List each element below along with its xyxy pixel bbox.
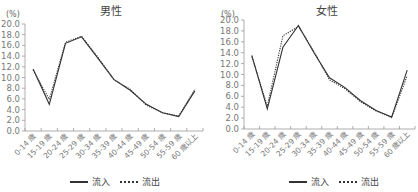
- solid-line-icon: [289, 181, 307, 183]
- dotted-line-icon: [120, 181, 138, 183]
- svg-text:20.0: 20.0: [220, 15, 239, 25]
- solid-line-icon: [70, 181, 88, 183]
- svg-text:12.0: 12.0: [1, 62, 20, 72]
- legend-inflow: 流入: [311, 175, 329, 188]
- svg-text:16.0: 16.0: [220, 37, 239, 47]
- svg-text:16.0: 16.0: [1, 40, 20, 50]
- svg-text:20.0: 20.0: [1, 19, 20, 29]
- svg-text:2.0: 2.0: [6, 115, 20, 125]
- legend: 流入 流出: [289, 175, 379, 188]
- svg-text:8.0: 8.0: [225, 80, 239, 90]
- line-chart-male: 0.02.04.06.08.010.012.014.016.018.020.00…: [0, 0, 209, 175]
- svg-text:10.0: 10.0: [1, 73, 20, 83]
- svg-text:8.0: 8.0: [6, 83, 20, 93]
- legend-inflow: 流入: [92, 175, 110, 188]
- svg-text:6.0: 6.0: [225, 91, 239, 101]
- svg-text:18.0: 18.0: [1, 30, 20, 40]
- svg-text:18.0: 18.0: [220, 26, 239, 36]
- legend: 流入 流出: [70, 175, 160, 188]
- svg-text:4.0: 4.0: [225, 102, 239, 112]
- chart-male: 男性 (%) 0.02.04.06.08.010.012.014.016.018…: [0, 0, 209, 192]
- dotted-line-icon: [339, 181, 357, 183]
- legend-outflow: 流出: [361, 175, 379, 188]
- svg-text:0.0: 0.0: [6, 126, 20, 136]
- line-chart-female: 0.02.04.06.08.010.012.014.016.018.020.00…: [209, 0, 418, 175]
- svg-text:2.0: 2.0: [225, 113, 239, 123]
- svg-text:0.0: 0.0: [225, 124, 239, 134]
- svg-text:14.0: 14.0: [1, 51, 20, 61]
- chart-female: 女性 (%) 0.02.04.06.08.010.012.014.016.018…: [209, 0, 418, 192]
- legend-outflow: 流出: [142, 175, 160, 188]
- svg-text:4.0: 4.0: [6, 105, 20, 115]
- svg-text:12.0: 12.0: [220, 59, 239, 69]
- svg-text:6.0: 6.0: [6, 94, 20, 104]
- svg-text:10.0: 10.0: [220, 70, 239, 80]
- svg-text:14.0: 14.0: [220, 48, 239, 58]
